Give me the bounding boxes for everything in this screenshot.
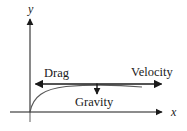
gravity-vector-label: Gravity — [75, 96, 113, 109]
drag-vector-label: Drag — [44, 67, 69, 80]
force-diagram-figure: Drag Velocity Gravity y x — [0, 0, 187, 131]
y-axis-label: y — [28, 3, 33, 15]
x-axis-label: x — [171, 106, 176, 118]
velocity-vector-label: Velocity — [131, 66, 173, 79]
